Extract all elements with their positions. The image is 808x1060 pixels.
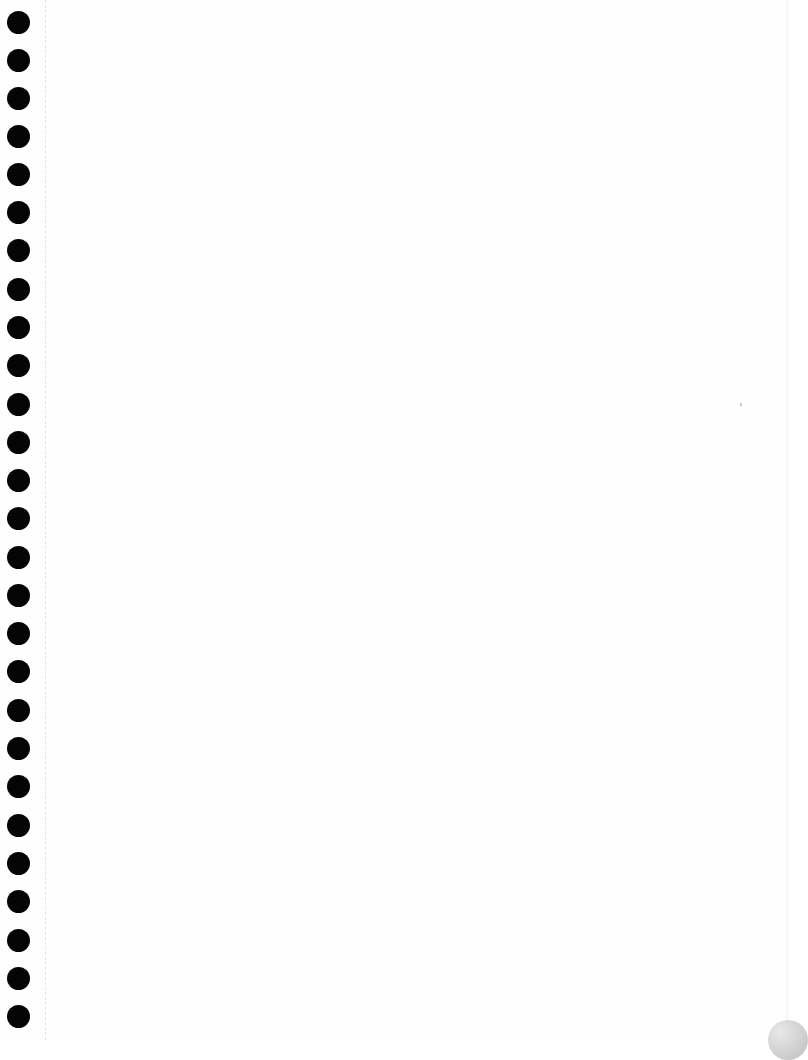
- punch-hole-icon: [7, 49, 30, 72]
- punch-hole-icon: [7, 737, 30, 760]
- punch-hole-icon: [7, 584, 30, 607]
- paper-speck: [740, 403, 742, 406]
- punch-hole-icon: [7, 163, 30, 186]
- punch-hole-icon: [7, 431, 30, 454]
- punch-hole-icon: [7, 507, 30, 530]
- punch-hole-icon: [7, 967, 30, 990]
- margin-line: [45, 0, 46, 1040]
- punch-hole-icon: [7, 87, 30, 110]
- punch-hole-icon: [7, 775, 30, 798]
- punch-hole-icon: [7, 239, 30, 262]
- punch-hole-icon: [7, 11, 30, 34]
- punch-hole-icon: [7, 278, 30, 301]
- page-corner-curl: [768, 1020, 808, 1060]
- punch-hole-icon: [7, 699, 30, 722]
- punch-hole-icon: [7, 469, 30, 492]
- punch-hole-icon: [7, 546, 30, 569]
- punch-hole-icon: [7, 890, 30, 913]
- punch-hole-icon: [7, 852, 30, 875]
- punch-hole-icon: [7, 660, 30, 683]
- punch-hole-icon: [7, 622, 30, 645]
- punch-hole-icon: [7, 814, 30, 837]
- punch-hole-icon: [7, 125, 30, 148]
- punch-hole-icon: [7, 201, 30, 224]
- page-edge: [785, 0, 788, 1040]
- punch-hole-icon: [7, 1005, 30, 1028]
- punch-hole-icon: [7, 316, 30, 339]
- punch-hole-icon: [7, 354, 30, 377]
- punch-hole-icon: [7, 929, 30, 952]
- punch-hole-icon: [7, 393, 30, 416]
